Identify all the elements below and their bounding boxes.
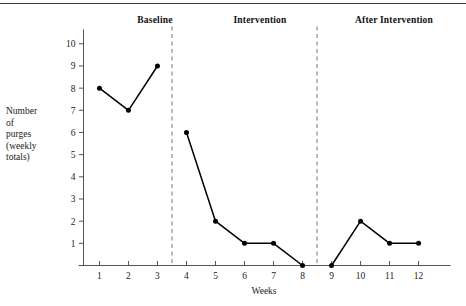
- data-point: [271, 241, 276, 246]
- y-tick-label-10: 10: [66, 39, 76, 49]
- y-tick-label-4: 4: [71, 172, 76, 182]
- y-tick-label-8: 8: [71, 84, 76, 94]
- data-point: [300, 263, 305, 268]
- series-line-0: [99, 66, 157, 110]
- y-tick-label-9: 9: [71, 61, 76, 71]
- y-tick-label-2: 2: [71, 217, 76, 227]
- y-tick-label-6: 6: [71, 128, 76, 138]
- data-point: [358, 219, 363, 224]
- y-tick-label-5: 5: [71, 150, 76, 160]
- figure-container: Baseline Intervention After Intervention…: [0, 0, 466, 306]
- data-point: [97, 86, 102, 91]
- x-tick-label-1: 1: [97, 271, 102, 281]
- data-point: [155, 63, 160, 68]
- data-point: [387, 241, 392, 246]
- x-tick-label-5: 5: [213, 271, 218, 281]
- data-point: [329, 263, 334, 268]
- axis-group: [79, 30, 451, 267]
- x-tick-label-2: 2: [126, 271, 131, 281]
- data-point: [242, 241, 247, 246]
- x-tick-label-12: 12: [414, 271, 424, 281]
- data-series-group: [97, 63, 421, 268]
- data-point: [213, 219, 218, 224]
- data-point: [416, 241, 421, 246]
- x-tick-label-8: 8: [300, 271, 305, 281]
- data-point: [184, 130, 189, 135]
- y-tick-label-3: 3: [71, 194, 76, 204]
- y-tick-label-7: 7: [71, 106, 76, 116]
- y-tick-label-1: 1: [71, 239, 76, 249]
- x-tick-label-7: 7: [271, 271, 276, 281]
- series-line-2: [332, 221, 419, 265]
- x-tick-label-11: 11: [385, 271, 394, 281]
- phase-divider-group: [172, 27, 317, 266]
- plot-area: 12345678910123456789101112: [0, 0, 466, 306]
- x-tick-label-6: 6: [242, 271, 247, 281]
- x-tick-label-3: 3: [155, 271, 160, 281]
- x-tick-label-4: 4: [184, 271, 189, 281]
- x-tick-label-9: 9: [329, 271, 334, 281]
- x-tick-label-10: 10: [356, 271, 366, 281]
- data-point: [126, 108, 131, 113]
